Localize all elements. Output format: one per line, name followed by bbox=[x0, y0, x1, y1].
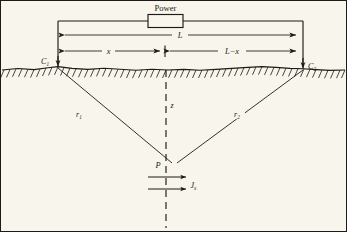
current-density-arrows: Jx bbox=[148, 177, 203, 191]
electrode-label-left: C1 bbox=[41, 57, 49, 67]
power-label: Power bbox=[155, 3, 177, 13]
dimension-label-x: x bbox=[106, 47, 111, 56]
ground-surface-line bbox=[2, 67, 345, 71]
dimension-total-L: L bbox=[65, 30, 296, 41]
dimension-split-row: x L−x bbox=[65, 46, 296, 58]
depth-axis-z: z bbox=[166, 70, 179, 228]
resistivity-diagram-figure: Power L x L−x C1 C2 bbox=[0, 0, 347, 232]
dimension-label-l-minus-x: L−x bbox=[224, 47, 239, 56]
diagram-canvas: Power L x L−x C1 C2 bbox=[0, 0, 347, 232]
power-source-symbol bbox=[148, 15, 183, 28]
dimension-label-L: L bbox=[177, 31, 183, 40]
point-p-label: P bbox=[155, 161, 161, 170]
